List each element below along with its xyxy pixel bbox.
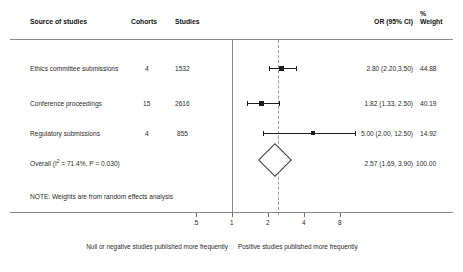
weights-note: NOTE: Weights are from random effects an… xyxy=(30,193,173,201)
footnote-right: Positive studies published more frequent… xyxy=(238,243,398,251)
row-cohorts-1: 15 xyxy=(143,100,150,108)
effect-marker-2 xyxy=(311,131,315,135)
axis-tick-3 xyxy=(304,213,305,217)
overall-label-prefix: Overall (I xyxy=(30,160,57,167)
row-effect-1: 1.82 (1.33, 2.50) xyxy=(365,100,413,108)
ci-cap-high-1 xyxy=(279,101,280,106)
row-label-2: Regulatory submissions xyxy=(30,130,100,138)
summary-diamond xyxy=(258,143,292,177)
axis-tick-1 xyxy=(232,213,233,217)
row-weight-0: 44.88 xyxy=(420,65,437,73)
row-cohorts-0: 4 xyxy=(145,65,149,73)
row-studies-1: 2616 xyxy=(175,100,190,108)
row-label-0: Ethics committee submissions xyxy=(30,65,118,73)
forest-plot-figure: Source of studies Cohorts Studies OR (95… xyxy=(0,0,463,272)
axis-tick-label-0: .5 xyxy=(193,219,198,227)
ci-cap-low-1 xyxy=(247,101,248,106)
column-header-cohorts: Cohorts xyxy=(131,18,157,26)
ci-cap-high-2 xyxy=(355,131,356,136)
axis-tick-0 xyxy=(196,213,197,217)
column-header-effect: OR (95% CI) xyxy=(374,18,413,26)
row-effect-0: 2.80 (2.20,3.50) xyxy=(366,65,413,73)
overall-weight: 100.00 xyxy=(416,160,436,168)
overall-effect: 2.57 (1.69, 3.90) xyxy=(365,160,413,168)
null-effect-line xyxy=(232,39,233,212)
axis-tick-label-4: 8 xyxy=(338,219,342,227)
axis-tick-label-1: 1 xyxy=(230,219,234,227)
footnote-left: Null or negative studies published more … xyxy=(58,243,228,251)
axis-tick-label-2: 2 xyxy=(266,219,270,227)
overall-label-suffix: = 71.4%, P = 0.030) xyxy=(59,160,119,167)
ci-line-2 xyxy=(263,133,355,134)
ci-cap-low-2 xyxy=(263,131,264,136)
effect-marker-1 xyxy=(259,101,264,106)
row-effect-2: 5.00 (2.00, 12.50) xyxy=(361,130,413,138)
row-studies-0: 1532 xyxy=(175,65,190,73)
ci-cap-high-0 xyxy=(296,66,297,71)
effect-marker-0 xyxy=(279,66,284,71)
row-cohorts-2: 4 xyxy=(145,130,149,138)
row-label-1: Conference proceedings xyxy=(30,100,102,108)
column-header-weight: Weight xyxy=(420,18,443,26)
axis-tick-2 xyxy=(268,213,269,217)
row-weight-2: 14.92 xyxy=(420,130,437,138)
column-header-source: Source of studies xyxy=(30,18,87,26)
overall-label: Overall (I2 = 71.4%, P = 0.030) xyxy=(30,160,120,168)
column-header-weight-percent: % xyxy=(420,10,426,18)
axis-tick-4 xyxy=(340,213,341,217)
axis-tick-label-3: 4 xyxy=(302,219,306,227)
row-studies-2: 855 xyxy=(177,130,188,138)
ci-cap-low-0 xyxy=(269,66,270,71)
row-weight-1: 40.19 xyxy=(420,100,437,108)
column-header-studies: Studies xyxy=(175,18,200,26)
